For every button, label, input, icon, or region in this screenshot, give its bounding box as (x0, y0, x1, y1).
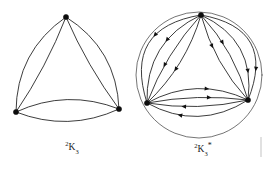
graph-edge (16, 99, 119, 112)
graph-vertex (63, 14, 68, 19)
figure-root: 2K3 2K3* (0, 0, 269, 171)
graph-edge (16, 109, 119, 122)
edge-arrowhead (181, 104, 186, 108)
graph-edge (141, 15, 201, 103)
caption-subscript-right: 3 (204, 150, 207, 157)
edge-arrowhead (254, 67, 259, 72)
graph-vertex (198, 12, 203, 17)
graph-edge (16, 17, 66, 112)
figure-canvas: 2K3 2K3* (0, 0, 269, 171)
left-graph-edges (16, 17, 119, 122)
right-graph-edges (141, 15, 256, 117)
graph-edge (201, 15, 249, 100)
svg-text:2K3: 2K3 (65, 140, 78, 155)
edge-arrowhead (209, 43, 215, 49)
graph-vertex (144, 100, 149, 105)
edge-arrowhead (220, 40, 226, 46)
caption-star-right: * (208, 141, 212, 150)
graph-vertex (116, 106, 121, 111)
graph-vertex (13, 109, 18, 114)
svg-text:2K3*: 2K3* (194, 141, 211, 157)
graph-edge (147, 15, 201, 103)
edge-arrowhead (204, 86, 209, 91)
enclosing-circle (136, 12, 262, 138)
edge-arrowhead (207, 95, 212, 99)
graph-vertex (245, 97, 250, 102)
edge-arrowhead (162, 62, 168, 68)
graph-edge (147, 97, 248, 103)
graph-edge (147, 100, 248, 117)
graph-edge (66, 17, 119, 109)
left-graph (13, 14, 121, 121)
left-graph-caption: 2K3 (65, 140, 78, 155)
caption-subscript-left: 3 (75, 148, 78, 155)
right-graph (136, 12, 262, 138)
edge-arrowhead (173, 66, 179, 72)
right-graph-caption: 2K3* (194, 141, 211, 157)
graph-edge (16, 17, 66, 112)
graph-edge (147, 100, 248, 107)
graph-edge (201, 15, 256, 100)
right-graph-arrowheads (152, 32, 258, 118)
graph-edge (66, 17, 119, 109)
